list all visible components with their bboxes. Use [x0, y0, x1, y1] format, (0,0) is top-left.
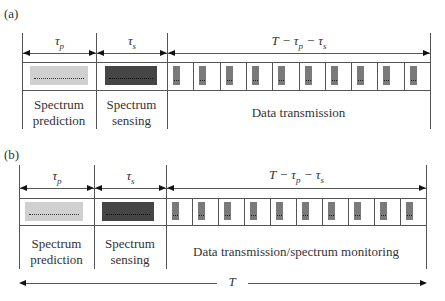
arrow-right-icon: [160, 50, 167, 56]
frame-bottom: [19, 225, 426, 226]
arrow-right-icon: [420, 280, 427, 286]
slot-bar: [250, 202, 257, 220]
slot-divider: [246, 62, 247, 90]
arrow-right-icon: [159, 185, 166, 191]
slot-divider: [325, 62, 326, 90]
slot-divider: [244, 198, 245, 225]
slot-bar: [224, 202, 231, 220]
slot-divider: [192, 198, 193, 225]
data-duration-label: T − τp − τs: [168, 33, 430, 51]
slot-bar: [198, 202, 205, 220]
slot-bar: [172, 202, 179, 220]
slot-bar: [199, 66, 206, 85]
tau-s-arrow: [97, 53, 167, 54]
tau-p-arrow: [23, 53, 96, 54]
slot-bar: [276, 202, 283, 220]
slot-bar: [406, 202, 413, 220]
slot-bar: [410, 66, 417, 85]
arrow-left-icon: [20, 185, 27, 191]
arrow-left-icon: [167, 185, 174, 191]
arrow-left-icon: [95, 185, 102, 191]
caption-prediction: Spectrum prediction: [19, 236, 94, 268]
tau-p-arrow: [20, 188, 94, 189]
slot-divider: [351, 62, 352, 90]
period-arrow-left: [22, 283, 217, 284]
slot-bar: [383, 66, 390, 85]
prediction-block: [30, 66, 88, 85]
slot-bar: [173, 66, 180, 85]
data-duration-label: T − τp − τs: [167, 167, 426, 185]
tau-p-label: τp: [23, 33, 96, 51]
slot-bar: [305, 66, 312, 85]
slot-divider: [193, 62, 194, 90]
arrow-right-icon: [89, 50, 96, 56]
arrow-left-icon: [19, 280, 26, 286]
arrow-left-icon: [168, 50, 175, 56]
slot-divider: [296, 198, 297, 225]
tau-p-label: τp: [20, 168, 94, 186]
slot-divider: [299, 62, 300, 90]
caption-sensing: Spectrum sensing: [94, 236, 166, 268]
caption-data: Data transmission/spectrum monitoring: [166, 244, 426, 260]
arrow-right-icon: [87, 185, 94, 191]
period-label: T: [222, 274, 242, 290]
sensing-block: [105, 66, 157, 85]
frame-top: [19, 198, 426, 199]
period-arrow-right: [248, 283, 424, 284]
slot-bar: [302, 202, 309, 220]
slot-divider: [377, 62, 378, 90]
boundary-end: [430, 33, 431, 129]
panel-a-label: (a): [4, 6, 18, 22]
frame-top: [22, 62, 430, 63]
slot-divider: [400, 198, 401, 225]
arrow-left-icon: [97, 50, 104, 56]
slot-divider: [272, 62, 273, 90]
tau-s-arrow: [95, 188, 166, 189]
sensing-block: [102, 202, 154, 221]
slot-divider: [374, 198, 375, 225]
slot-bar: [357, 66, 364, 85]
panel-b-label: (b): [4, 147, 19, 163]
boundary-end: [426, 165, 427, 269]
tau-s-label: τs: [95, 168, 166, 186]
slot-divider: [348, 198, 349, 225]
slot-bar: [354, 202, 361, 220]
slot-bar: [331, 66, 338, 85]
slot-divider: [220, 62, 221, 90]
frame-bottom: [22, 90, 430, 91]
tau-s-label: τs: [97, 33, 167, 51]
slot-bar: [380, 202, 387, 220]
slot-divider: [270, 198, 271, 225]
caption-data: Data transmission: [167, 105, 430, 121]
arrow-right-icon: [419, 185, 426, 191]
arrow-left-icon: [23, 50, 30, 56]
slot-bar: [328, 202, 335, 220]
prediction-block: [25, 202, 83, 221]
caption-sensing: Spectrum sensing: [96, 97, 167, 129]
slot-bar: [278, 66, 285, 85]
caption-prediction: Spectrum prediction: [22, 97, 96, 129]
data-duration-arrow: [167, 188, 426, 189]
slot-divider: [322, 198, 323, 225]
slot-divider: [218, 198, 219, 225]
slot-bar: [226, 66, 233, 85]
data-duration-arrow: [168, 53, 430, 54]
slot-divider: [404, 62, 405, 90]
arrow-right-icon: [423, 50, 430, 56]
slot-bar: [252, 66, 259, 85]
